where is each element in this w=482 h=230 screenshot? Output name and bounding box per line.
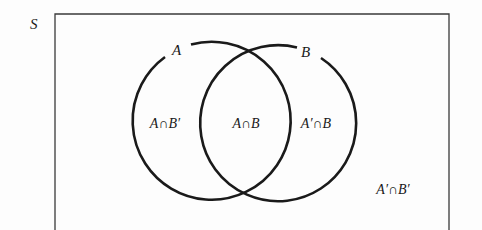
region-neither-label: A′∩B′ [376, 183, 409, 197]
venn-diagram-canvas [0, 0, 482, 230]
region-a-only-label: A∩B′ [150, 117, 180, 131]
set-b-circle [200, 45, 356, 201]
set-b-label: B [301, 45, 310, 60]
region-b-only-label: A′∩B [301, 117, 331, 131]
set-a-label: A [172, 43, 181, 58]
region-intersection-label: A∩B [232, 117, 259, 131]
universe-label: S [30, 17, 38, 32]
